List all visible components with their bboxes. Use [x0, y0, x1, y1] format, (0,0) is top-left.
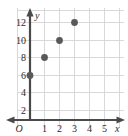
y-axis-label: y	[34, 10, 40, 21]
origin-label: O	[15, 123, 22, 134]
y-tick-label: 4	[21, 87, 26, 98]
y-axis	[26, 8, 33, 120]
x-tick-label: 5	[102, 123, 107, 134]
x-tick-label: 1	[42, 123, 47, 134]
x-tick-label: 4	[87, 123, 92, 134]
chart-canvas: 12 10 8 6 4 2 1 2 3 4 5 O y x	[0, 0, 128, 136]
data-point	[41, 54, 48, 61]
data-point	[56, 37, 63, 44]
scatter-plot-figure: 12 10 8 6 4 2 1 2 3 4 5 O y x	[0, 0, 128, 136]
y-axis-arrow-icon	[26, 8, 33, 17]
y-tick-label: 12	[16, 17, 26, 28]
x-axis-label: x	[114, 123, 120, 134]
x-axis	[6, 116, 125, 123]
x-tick-label: 2	[57, 123, 62, 134]
y-tick-label: 8	[21, 52, 26, 63]
x-axis-arrow-icon	[6, 116, 15, 123]
data-point	[27, 72, 34, 79]
x-axis-tick-labels: 1 2 3 4 5	[42, 123, 107, 134]
y-tick-label: 2	[21, 105, 26, 116]
data-points	[27, 19, 78, 79]
data-point	[71, 19, 78, 26]
x-tick-label: 3	[72, 123, 77, 134]
y-tick-label: 6	[21, 70, 26, 81]
y-tick-label: 10	[16, 35, 26, 46]
grid-lines	[18, 8, 125, 128]
